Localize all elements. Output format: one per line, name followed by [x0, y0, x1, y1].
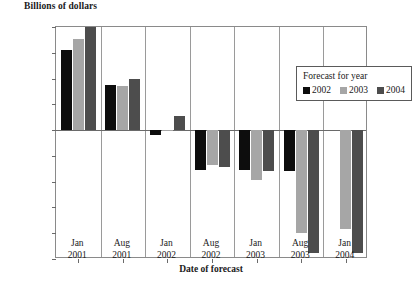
bar-2003-jan2004 — [340, 130, 351, 229]
legend-label-2003: 2003 — [349, 85, 368, 95]
bar-2002-jan2001 — [61, 50, 72, 130]
legend-swatch-2004 — [377, 87, 384, 94]
x-label-month: Aug — [292, 238, 308, 248]
bar-2004-jan2004 — [352, 130, 363, 252]
x-label-month: Aug — [114, 238, 130, 248]
x-label-month: Jan — [249, 238, 262, 248]
y-axis-tick — [52, 27, 56, 28]
bar-2003-jan2002 — [162, 130, 173, 131]
bar-2003-aug2001 — [117, 86, 128, 130]
group-separator — [145, 27, 146, 257]
legend-label-2002: 2002 — [312, 85, 331, 95]
group-separator — [101, 27, 102, 257]
y-axis-tick — [52, 53, 56, 54]
bar-2003-aug2003 — [296, 130, 307, 233]
x-axis-title: Date of forecast — [55, 264, 367, 274]
legend-title: Forecast for year — [303, 71, 405, 81]
legend-entry-2004: 2004 — [377, 85, 405, 95]
group-separator — [279, 27, 280, 257]
x-label-month: Aug — [203, 238, 219, 248]
bar-2002-aug2002 — [195, 130, 206, 170]
plot-area: Forecast for year 200220032004 — [55, 26, 367, 258]
group-separator — [190, 27, 191, 257]
x-axis-tick-label: Jan2004 — [315, 238, 375, 261]
bar-2004-aug2003 — [308, 130, 319, 252]
y-axis-tick — [52, 182, 56, 183]
y-axis-tick — [52, 156, 56, 157]
group-separator — [323, 27, 324, 257]
x-label-month: Jan — [71, 238, 84, 248]
legend-swatch-2002 — [303, 87, 310, 94]
legend-entry-2003: 2003 — [340, 85, 368, 95]
legend-entries: 200220032004 — [303, 85, 405, 95]
x-label-month: Jan — [160, 238, 173, 248]
y-axis-tick — [52, 207, 56, 208]
y-axis-title: Billions of dollars — [24, 1, 97, 11]
bar-2004-jan2001 — [85, 27, 96, 130]
bar-2004-jan2003 — [263, 130, 274, 171]
x-label-month: Jan — [338, 238, 351, 248]
legend: Forecast for year 200220032004 — [296, 66, 412, 101]
bar-2002-aug2001 — [105, 85, 116, 130]
y-axis-tick — [52, 233, 56, 234]
x-label-year: 2004 — [315, 250, 375, 262]
bar-2003-aug2002 — [207, 130, 218, 165]
bar-2002-aug2003 — [284, 130, 295, 171]
bar-2002-jan2003 — [239, 130, 250, 170]
y-axis-tick — [52, 104, 56, 105]
bar-2004-aug2002 — [219, 130, 230, 167]
legend-swatch-2003 — [340, 87, 347, 94]
group-separator — [234, 27, 235, 257]
bar-2004-jan2002 — [174, 116, 185, 130]
legend-label-2004: 2004 — [386, 85, 405, 95]
bar-2003-jan2003 — [251, 130, 262, 180]
bar-2002-jan2002 — [150, 130, 161, 135]
y-axis-tick — [52, 79, 56, 80]
bar-2004-aug2001 — [129, 79, 140, 131]
bar-2003-jan2001 — [73, 39, 84, 131]
legend-entry-2002: 2002 — [303, 85, 331, 95]
